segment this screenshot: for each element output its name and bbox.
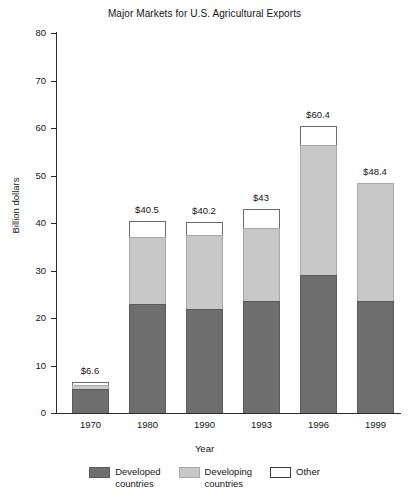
legend-label: Developing countries	[205, 466, 253, 489]
white-swatch	[270, 467, 291, 478]
y-axis-tick-label: 10	[35, 361, 46, 371]
x-axis-tick-label-1980: 1980	[117, 419, 178, 430]
y-axis-tick-label: 60	[35, 123, 46, 133]
bar-value-label: $6.6	[60, 365, 121, 376]
light-gray-swatch	[179, 467, 200, 478]
x-axis-tick-label-1999: 1999	[345, 419, 406, 430]
bar-segment-other[interactable]	[300, 126, 337, 145]
legend-item-1[interactable]: Developing countries	[179, 466, 253, 489]
bar-segment-developing-countries[interactable]	[300, 145, 337, 276]
y-axis-title: Billion dollars	[10, 146, 21, 266]
bar-segment-developing-countries[interactable]	[357, 183, 394, 301]
bar-stack[interactable]	[243, 209, 280, 413]
plot-area: $6.6$40.5$40.2$43$60.4$48.4	[57, 33, 400, 413]
y-axis-tick-label: 30	[35, 266, 46, 276]
bar-group-1996[interactable]: $60.4	[300, 33, 337, 413]
bar-segment-developed-countries[interactable]	[129, 304, 166, 413]
bar-group-1990[interactable]: $40.2	[186, 33, 223, 413]
bar-segment-developed-countries[interactable]	[243, 301, 280, 413]
bar-segment-developed-countries[interactable]	[357, 301, 394, 413]
bar-stack[interactable]	[186, 222, 223, 413]
y-axis-tick-label: 50	[35, 171, 46, 181]
x-axis-tick-label-1996: 1996	[288, 419, 349, 430]
y-axis-tick-label: 40	[35, 218, 46, 228]
bar-segment-developed-countries[interactable]	[300, 275, 337, 413]
bar-group-1993[interactable]: $43	[243, 33, 280, 413]
bar-stack[interactable]	[300, 126, 337, 413]
bar-value-label: $48.4	[345, 166, 406, 177]
x-axis-tick-label-1990: 1990	[174, 419, 235, 430]
bar-value-label: $40.5	[117, 204, 178, 215]
bar-segment-developed-countries[interactable]	[72, 389, 109, 413]
y-axis-tick-label: 70	[35, 76, 46, 86]
x-axis-tick-label-1970: 1970	[60, 419, 121, 430]
bar-segment-developing-countries[interactable]	[243, 228, 280, 302]
bar-value-label: $60.4	[288, 109, 349, 120]
x-axis-title: Year	[0, 443, 409, 454]
legend-item-2[interactable]: Other	[270, 466, 320, 478]
x-axis-line	[56, 413, 401, 414]
legend-label: Developed countries	[115, 466, 160, 489]
y-axis-tick-label: 0	[41, 408, 46, 418]
bar-stack[interactable]	[129, 221, 166, 413]
bar-stack[interactable]	[357, 183, 394, 413]
y-axis-tick-label: 20	[35, 313, 46, 323]
bar-value-label: $43	[231, 192, 292, 203]
bar-group-1999[interactable]: $48.4	[357, 33, 394, 413]
bar-segment-other[interactable]	[129, 221, 166, 238]
legend-label: Other	[296, 466, 320, 478]
dark-gray-swatch	[89, 467, 110, 478]
y-axis-tick	[51, 413, 57, 414]
x-axis-tick-label-1993: 1993	[231, 419, 292, 430]
bar-segment-developing-countries[interactable]	[129, 237, 166, 304]
bar-segment-developing-countries[interactable]	[186, 235, 223, 309]
chart-legend: Developed countriesDeveloping countriesO…	[0, 466, 409, 489]
legend-item-0[interactable]: Developed countries	[89, 466, 160, 489]
bar-value-label: $40.2	[174, 205, 235, 216]
bar-stack[interactable]	[72, 382, 109, 413]
chart-title: Major Markets for U.S. Agricultural Expo…	[0, 8, 409, 19]
bar-group-1970[interactable]: $6.6	[72, 33, 109, 413]
bar-segment-developed-countries[interactable]	[186, 309, 223, 414]
bar-segment-other[interactable]	[243, 209, 280, 228]
y-axis-tick-label: 80	[35, 28, 46, 38]
bar-group-1980[interactable]: $40.5	[129, 33, 166, 413]
bar-segment-other[interactable]	[186, 222, 223, 235]
